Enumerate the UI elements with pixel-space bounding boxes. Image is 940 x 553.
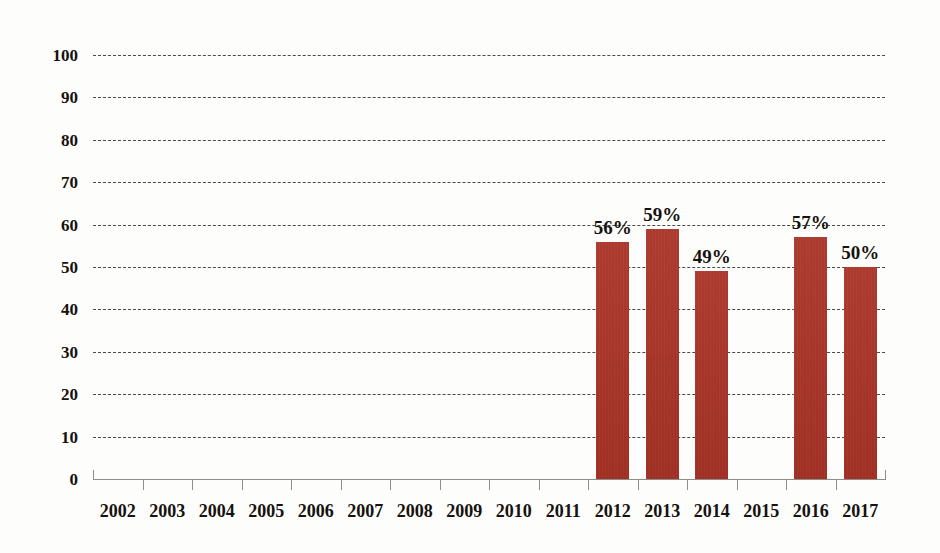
x-axis-tick-label: 2017 (836, 502, 886, 520)
x-axis-tick-label: 2008 (390, 502, 440, 520)
x-axis-tick (539, 479, 540, 490)
x-axis-tick-label: 2006 (291, 502, 341, 520)
y-axis-tick-label: 10 (22, 428, 78, 445)
gridline (93, 267, 885, 268)
y-axis-tick-labels: 1009080706050403020100 (0, 55, 78, 479)
x-axis-tick (390, 479, 391, 490)
gridline (93, 182, 885, 183)
x-axis-end-tick (885, 470, 886, 480)
x-axis-tick (489, 479, 490, 490)
gridline (93, 437, 885, 438)
x-axis-tick (143, 479, 144, 490)
x-axis-tick (836, 479, 837, 490)
y-axis-tick-label: 30 (22, 343, 78, 360)
x-axis-tick-label: 2003 (143, 502, 193, 520)
x-axis-tick-label: 2005 (242, 502, 292, 520)
x-axis-tick-label: 2009 (440, 502, 490, 520)
y-axis-tick-label: 90 (22, 89, 78, 106)
gridline (93, 394, 885, 395)
x-axis-tick (786, 479, 787, 490)
x-axis-tick-label: 2015 (737, 502, 787, 520)
x-axis-tick (588, 479, 589, 490)
y-axis-stub (93, 470, 94, 480)
y-axis-tick-label: 70 (22, 174, 78, 191)
x-axis-tick-label: 2010 (489, 502, 539, 520)
x-axis-tick (341, 479, 342, 490)
x-axis-tick-label: 2004 (192, 502, 242, 520)
x-axis-tick-label: 2013 (638, 502, 688, 520)
x-axis-tick-label: 2011 (539, 502, 589, 520)
x-axis-tick (440, 479, 441, 490)
x-axis-tick-label: 2014 (687, 502, 737, 520)
bar[interactable] (794, 237, 827, 479)
y-axis-tick-label: 20 (22, 386, 78, 403)
y-axis-tick-label: 0 (22, 471, 78, 488)
gridline (93, 140, 885, 141)
bar[interactable] (646, 229, 679, 479)
y-axis-tick-label: 60 (22, 216, 78, 233)
gridline (93, 309, 885, 310)
bar[interactable] (596, 242, 629, 479)
bar[interactable] (844, 267, 877, 479)
y-axis-tick-label: 80 (22, 131, 78, 148)
bar-value-label: 57% (781, 213, 841, 232)
plot-area: 56%59%49%57%50% (93, 55, 885, 479)
x-axis-tick-label: 2002 (93, 502, 143, 520)
x-axis-tick-label: 2007 (341, 502, 391, 520)
x-axis-tick (192, 479, 193, 490)
x-axis-tick (638, 479, 639, 490)
gridline (93, 225, 885, 226)
chart-page: 1009080706050403020100 56%59%49%57%50% 2… (0, 0, 940, 553)
gridline (93, 55, 885, 56)
x-axis-tick (737, 479, 738, 490)
bar-value-label: 50% (830, 243, 890, 262)
x-axis-tick (291, 479, 292, 490)
y-axis-tick-label: 100 (22, 47, 78, 64)
y-axis-tick-label: 40 (22, 301, 78, 318)
bar-value-label: 59% (632, 205, 692, 224)
gridline (93, 352, 885, 353)
x-axis-tick-labels: 2002200320042005200620072008200920102011… (93, 502, 885, 532)
x-axis-tick (687, 479, 688, 490)
x-axis-tick-label: 2012 (588, 502, 638, 520)
bar-value-label: 49% (682, 247, 742, 266)
gridline (93, 97, 885, 98)
x-axis-tick (242, 479, 243, 490)
y-axis-tick-label: 50 (22, 259, 78, 276)
bar[interactable] (695, 271, 728, 479)
x-axis-tick-label: 2016 (786, 502, 836, 520)
